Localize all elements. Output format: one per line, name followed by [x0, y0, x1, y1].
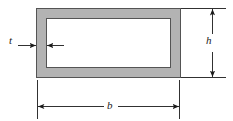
height-dimension	[181, 9, 226, 78]
tube-inner-outline	[47, 19, 171, 68]
tube-wall	[36, 8, 181, 78]
figure-canvas	[0, 0, 233, 121]
height-label: h	[206, 35, 212, 46]
thickness-label: t	[9, 35, 12, 46]
tube-cross-section-figure: t h b	[0, 0, 233, 121]
width-label: b	[107, 100, 113, 111]
